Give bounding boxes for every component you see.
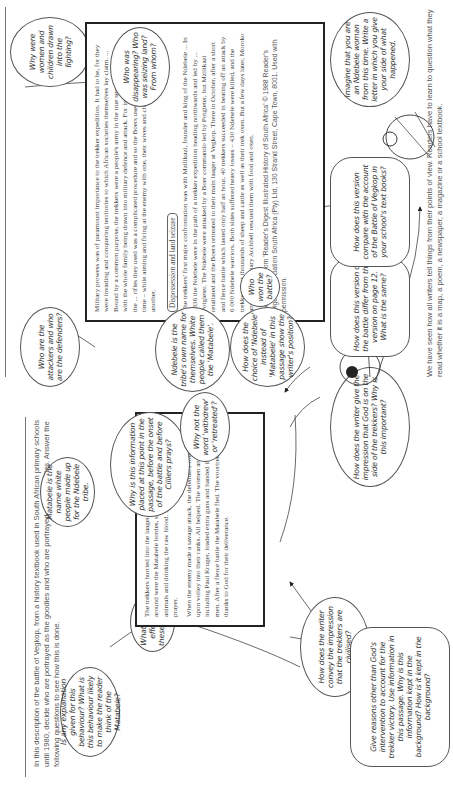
bubble-imagine: Imagine that you are an Ndebele woman fr…: [330, 12, 410, 107]
bubble-why-not-withdrew: Why not the word 'withdrew' or 'retreate…: [180, 392, 230, 462]
bubble-explanation: Is any explanation given for this behavi…: [60, 667, 120, 757]
bubble-matabele-name: Matabele is the name white people made u…: [40, 457, 95, 527]
bubble-reasons: Give reasons other than God's interventi…: [350, 627, 450, 767]
conclusion-text: We have seen how all writers tell things…: [425, 7, 445, 377]
bubble-women-children: Why were women and children drawn into t…: [10, 17, 90, 87]
bubble-why-placed: Why is this information placed at this p…: [110, 412, 190, 517]
rotated-document-page: In this description of the battle of Veg…: [0, 0, 453, 787]
right-top-rule: [5, 7, 6, 377]
bubble-how-differ: How does this version of the battle diff…: [330, 257, 410, 357]
reference-paragraph-2: The trekkers' first major confrontation …: [181, 32, 256, 312]
bubble-choice-of-name: How does the choice of 'Ndebele' instead…: [230, 307, 305, 387]
bubble-how-compare: How does this version compare with the a…: [330, 157, 410, 267]
bubble-who-won: Who won the battle?: [240, 267, 280, 307]
bubble-ndebele-name: Ndebele is the tribe's own name for them…: [155, 307, 230, 392]
bubble-attackers: Who are the attackers and who are the de…: [20, 307, 80, 387]
bubble-disappearing: Who was disappearing? Who was seizing la…: [110, 27, 170, 107]
section-heading: Dispossession and land seizure: [167, 213, 178, 312]
top-rule: [25, 417, 26, 777]
